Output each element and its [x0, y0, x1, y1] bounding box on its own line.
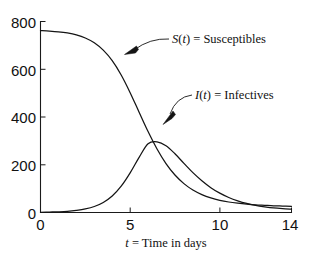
x-axis-caption: t = Time in days	[125, 236, 207, 250]
y-tick-label-800: 800	[11, 14, 36, 31]
x-tick-label-14: 14	[282, 216, 299, 233]
sir-plot-svg: 800 600 400 200 0 0 5 10 14 S(t) = Susce…	[0, 0, 317, 257]
infectives-rest: = Infectives	[211, 88, 274, 102]
y-tick-label-0: 0	[28, 205, 36, 222]
susceptibles-label: S(t) = Susceptibles	[172, 32, 266, 46]
infectives-label: I(t) = Infectives	[194, 88, 274, 102]
y-tick-label-400: 400	[11, 109, 36, 126]
y-tick-label-200: 200	[11, 157, 36, 174]
x-tick-label-5: 5	[126, 216, 134, 233]
x-tick-label-10: 10	[212, 216, 229, 233]
y-tick-label-600: 600	[11, 62, 36, 79]
susceptibles-rest: = Susceptibles	[190, 32, 266, 46]
plot-background	[0, 0, 317, 257]
sir-model-figure: 800 600 400 200 0 0 5 10 14 S(t) = Susce…	[0, 0, 317, 257]
x-tick-label-0: 0	[36, 216, 44, 233]
x-axis-caption-rest: = Time in days	[129, 236, 207, 250]
